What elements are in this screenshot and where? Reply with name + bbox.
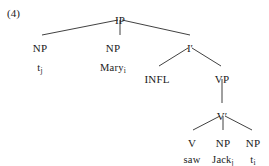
tree-edge-ip-ibar bbox=[122, 20, 190, 35]
tree-node-saw: saw bbox=[184, 154, 201, 166]
tree-edge-ibar-vp bbox=[192, 48, 221, 66]
tree-node-subscript: i bbox=[124, 66, 126, 75]
tree-node-vp: VP bbox=[215, 73, 229, 85]
tree-node-label: NP bbox=[33, 42, 47, 54]
tree-node-label: Jack bbox=[212, 154, 231, 165]
tree-node-label: NP bbox=[216, 137, 230, 149]
tree-edge-vbar-np4 bbox=[225, 116, 252, 130]
tree-node-label: VP bbox=[215, 73, 229, 85]
tree-node-np4: NP bbox=[246, 137, 260, 149]
syntax-tree-figure: (4) IPNPtjNPMaryiI′INFLVPV′VsawNPJackjNP… bbox=[0, 0, 269, 166]
tree-node-infl: INFL bbox=[144, 73, 169, 85]
tree-node-t_j: tj bbox=[37, 62, 42, 74]
tree-node-subscript: i bbox=[253, 158, 255, 166]
tree-node-label: Mary bbox=[100, 62, 124, 73]
tree-node-label: NP bbox=[246, 137, 260, 149]
tree-edge-ibar-infl bbox=[159, 48, 188, 66]
tree-node-label: saw bbox=[184, 154, 201, 165]
tree-node-jack: Jackj bbox=[212, 154, 234, 166]
tree-node-label: IP bbox=[115, 14, 125, 26]
tree-node-subscript: j bbox=[40, 66, 42, 75]
tree-node-label: NP bbox=[106, 42, 120, 54]
tree-node-np1: NP bbox=[33, 42, 47, 54]
tree-node-t_i: ti bbox=[250, 154, 255, 166]
tree-node-label: V bbox=[188, 137, 196, 149]
tree-node-ip: IP bbox=[115, 14, 125, 26]
tree-node-vbar: V′ bbox=[217, 110, 227, 122]
tree-node-label: I′ bbox=[187, 42, 193, 54]
tree-node-np3: NP bbox=[216, 137, 230, 149]
tree-node-label: V′ bbox=[217, 110, 227, 122]
tree-node-mary: Maryi bbox=[100, 62, 126, 74]
tree-node-label: INFL bbox=[144, 73, 169, 85]
tree-node-ibar: I′ bbox=[187, 42, 193, 54]
tree-node-np2: NP bbox=[106, 42, 120, 54]
tree-node-subscript: j bbox=[232, 158, 234, 166]
tree-node-v: V bbox=[188, 137, 196, 149]
tree-edge-ip-np1 bbox=[42, 20, 118, 35]
